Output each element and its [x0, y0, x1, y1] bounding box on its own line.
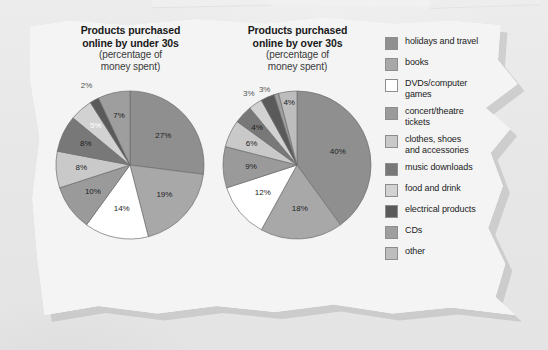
pie-slice-label: 2% [81, 81, 93, 90]
pie-slice-label: 4% [283, 98, 295, 107]
chart-2-title-line1: Products purchased [215, 24, 380, 37]
legend-swatch-icon [385, 37, 398, 50]
chart-2-title-line2: online by over 30s [215, 37, 380, 50]
legend-swatch-icon [385, 184, 398, 197]
legend-item-label: holidays and travel [405, 36, 478, 47]
pie-slice-label: 40% [330, 147, 346, 156]
legend-swatch-icon [385, 163, 398, 176]
pie-slice-label: 27% [155, 131, 171, 140]
legend-item[interactable]: DVDs/computer games [385, 78, 517, 99]
legend-item[interactable]: concert/theatre tickets [385, 106, 517, 127]
legend-item[interactable]: CDs [385, 225, 517, 239]
pie-slice-label: 18% [292, 204, 308, 213]
legend-item-label: food and drink [405, 183, 461, 194]
pie-slice-label: 7% [113, 111, 125, 120]
legend-item-label: music downloads [405, 162, 473, 173]
legend-item-label: books [405, 57, 429, 68]
pie-slice-label: 8% [80, 139, 92, 148]
chart-1-title-line1: Products purchased [48, 24, 213, 37]
legend-item-label: clothes, shoes and accessories [405, 134, 469, 155]
pie-slice-label: 4% [251, 123, 263, 132]
pie-slice-label: 6% [246, 139, 258, 148]
legend-item[interactable]: electrical products [385, 204, 517, 218]
legend-swatch-icon [385, 226, 398, 239]
pie-slice-label: 3% [259, 85, 271, 94]
pie-slice-label: 10% [85, 187, 101, 196]
chart-2-pie-svg: 40%18%12%9%6%4%3%3%1%4% [215, 73, 380, 248]
legend-swatch-icon [385, 205, 398, 218]
chart-1-subtitle-line1: (percentage of [48, 49, 213, 61]
legend-swatch-icon [385, 79, 398, 92]
chart-2-subtitle-line2: money spent) [215, 61, 380, 73]
figure-content: Products purchased online by under 30s (… [30, 18, 520, 318]
chart-1-title-line2: online by under 30s [48, 37, 213, 50]
chart-1-pie-area: 27%19%14%10%8%8%5%2%7% [48, 73, 213, 248]
legend-swatch-icon [385, 58, 398, 71]
legend-item[interactable]: holidays and travel [385, 36, 517, 50]
chart-1-subtitle-line2: money spent) [48, 61, 213, 73]
pie-slice-label: 9% [245, 162, 257, 171]
legend-item[interactable]: music downloads [385, 162, 517, 176]
legend-item[interactable]: food and drink [385, 183, 517, 197]
pie-chart-over-30s: Products purchased online by over 30s (p… [215, 24, 380, 248]
pie-slice-label: 19% [156, 190, 172, 199]
legend-item[interactable]: books [385, 57, 517, 71]
legend-item-label: DVDs/computer games [405, 78, 467, 99]
legend-item-label: other [405, 246, 425, 257]
chart-2-subtitle-line1: (percentage of [215, 49, 380, 61]
chart-legend: holidays and travelbooksDVDs/computer ga… [385, 36, 517, 267]
legend-swatch-icon [385, 135, 398, 148]
pie-chart-under-30s: Products purchased online by under 30s (… [48, 24, 213, 248]
legend-item[interactable]: clothes, shoes and accessories [385, 134, 517, 155]
pie-slice-label: 5% [90, 121, 102, 130]
chart-1-pie-svg: 27%19%14%10%8%8%5%2%7% [48, 73, 213, 248]
legend-swatch-icon [385, 247, 398, 260]
chart-2-pie-area: 40%18%12%9%6%4%3%3%1%4% [215, 73, 380, 248]
legend-item[interactable]: other [385, 246, 517, 260]
legend-item-label: CDs [405, 225, 422, 236]
pie-slice-label: 14% [114, 204, 130, 213]
pie-slice-label: 3% [243, 89, 255, 98]
pie-slice-label: 12% [255, 188, 271, 197]
legend-item-label: electrical products [405, 204, 476, 215]
legend-item-label: concert/theatre tickets [405, 106, 464, 127]
pie-slice-label: 8% [76, 163, 88, 172]
legend-swatch-icon [385, 107, 398, 120]
